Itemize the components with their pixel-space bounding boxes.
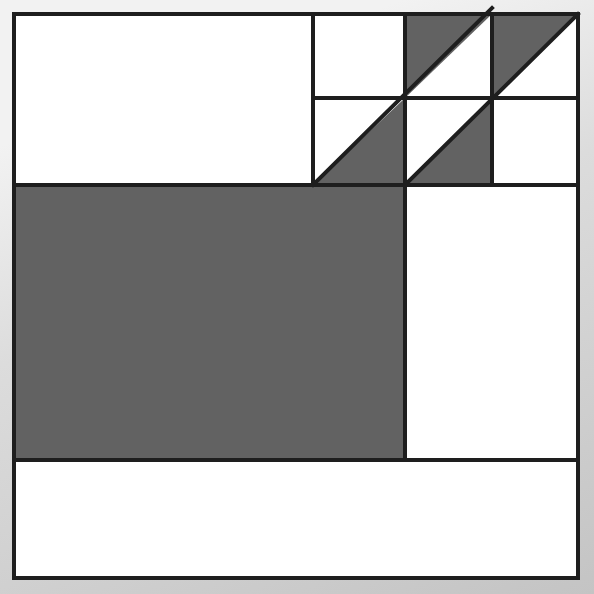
geometric-dissection-figure: [0, 0, 594, 594]
figure-root: [0, 0, 594, 594]
large-shaded-rectangle: [14, 185, 405, 460]
